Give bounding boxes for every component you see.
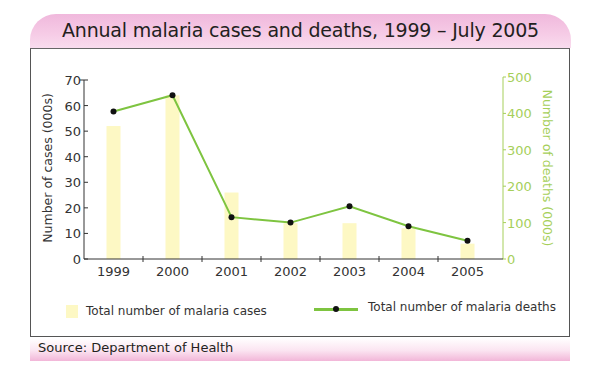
right-tick-label: 0 bbox=[507, 252, 515, 267]
left-axis: 010203040506070 bbox=[64, 73, 88, 267]
x-tick-label: 1999 bbox=[97, 264, 130, 279]
cases-bar bbox=[107, 126, 121, 259]
x-tick-label: 2000 bbox=[156, 264, 189, 279]
left-tick-label: 40 bbox=[64, 150, 81, 165]
right-axis: 0100200300400500 bbox=[497, 70, 532, 267]
cases-bar bbox=[343, 223, 357, 259]
source-text: Source: Department of Health bbox=[38, 340, 233, 355]
legend-marker-icon bbox=[333, 306, 339, 312]
right-tick-label: 400 bbox=[507, 106, 532, 121]
x-tick-label: 2001 bbox=[215, 264, 248, 279]
left-tick-label: 10 bbox=[64, 226, 81, 241]
left-tick-label: 0 bbox=[73, 252, 81, 267]
left-tick-label: 30 bbox=[64, 175, 81, 190]
cases-bar bbox=[284, 223, 298, 259]
cases-bar bbox=[402, 228, 416, 259]
legend-bar-swatch-icon bbox=[66, 305, 78, 318]
deaths-line bbox=[111, 92, 471, 244]
left-tick-label: 70 bbox=[64, 73, 81, 88]
deaths-marker bbox=[229, 214, 235, 220]
left-tick-label: 20 bbox=[64, 201, 81, 216]
source-bar: Source: Department of Health bbox=[30, 338, 570, 361]
cases-bar bbox=[461, 244, 475, 259]
cases-bar bbox=[225, 193, 239, 259]
left-axis-label: Number of cases (000s) bbox=[40, 93, 55, 243]
deaths-marker bbox=[406, 223, 412, 229]
deaths-marker bbox=[288, 220, 294, 226]
deaths-marker bbox=[170, 92, 176, 98]
deaths-marker bbox=[347, 203, 353, 209]
x-tick-label: 2004 bbox=[392, 264, 425, 279]
deaths-marker bbox=[111, 109, 117, 115]
right-axis-label: Number of deaths (000s) bbox=[540, 90, 555, 247]
legend-deaths-label: Total number of malaria deaths bbox=[368, 300, 556, 314]
x-tick-label: 2002 bbox=[274, 264, 307, 279]
x-tick-label: 2003 bbox=[333, 264, 366, 279]
right-tick-label: 100 bbox=[507, 216, 532, 231]
cases-bars bbox=[107, 95, 475, 259]
left-tick-label: 50 bbox=[64, 124, 81, 139]
right-tick-label: 200 bbox=[507, 179, 532, 194]
right-tick-label: 500 bbox=[507, 70, 532, 85]
x-axis: 1999200020012002200320042005 bbox=[84, 256, 497, 279]
chart-plot: 010203040506070 0100200300400500 1999200… bbox=[0, 0, 600, 379]
deaths-marker bbox=[465, 238, 471, 244]
right-tick-label: 300 bbox=[507, 143, 532, 158]
left-tick-label: 60 bbox=[64, 99, 81, 114]
x-tick-label: 2005 bbox=[451, 264, 484, 279]
cases-bar bbox=[166, 95, 180, 259]
legend-cases-label: Total number of malaria cases bbox=[86, 304, 267, 318]
